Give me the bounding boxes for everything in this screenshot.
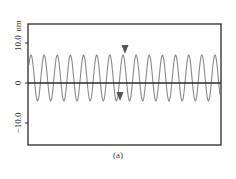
signal-waveform (29, 55, 220, 101)
figure-caption: (a) (0, 150, 236, 160)
y-tick-label-10: 10.0 (13, 35, 23, 51)
y-tick-label-0: 0 (13, 80, 23, 85)
y-tick-label-minus-10: −10.0 (13, 112, 23, 133)
y-unit-label: nm (13, 20, 23, 32)
marker-triangle-upper (122, 45, 129, 54)
